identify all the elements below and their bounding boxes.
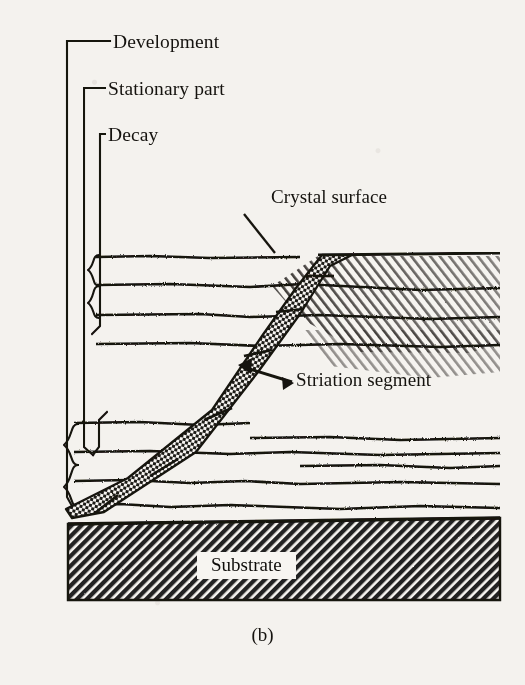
bracket-stationary-part — [84, 88, 105, 455]
region-label-substrate: Substrate — [197, 552, 296, 579]
bracket-label-decay: Decay — [108, 124, 158, 146]
figure-caption: (b) — [0, 624, 525, 646]
callout-label-striation-segment: Striation segment — [296, 369, 431, 391]
bracket-label-development: Development — [113, 31, 219, 53]
bracket-development — [67, 41, 110, 506]
bracket-connector — [93, 412, 107, 455]
figure-page: Development Stationary part Decay Crysta… — [0, 0, 525, 685]
bracket-label-stationary-part: Stationary part — [108, 78, 225, 100]
bracket-decay — [92, 134, 105, 334]
callout-label-crystal-surface: Crystal surface — [271, 186, 387, 208]
bracket-upper-block — [88, 255, 99, 318]
striation-lines-lower — [74, 422, 500, 509]
crystal-surface-leader — [244, 214, 275, 253]
figure-canvas — [0, 0, 525, 685]
